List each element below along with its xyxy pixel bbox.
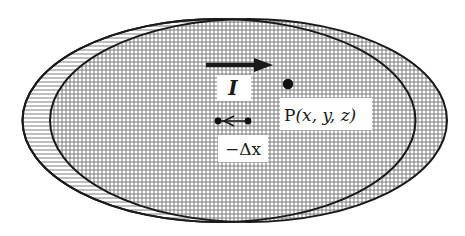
point-p-dot [283,79,293,89]
current-label: I [217,75,251,101]
point-label: P(x, y, z) [280,98,372,130]
point-label-prefix: P [284,105,295,125]
displacement-label-text: −Δx [225,139,262,159]
svg-text:P(x, y, z): P(x, y, z) [284,105,356,125]
point-label-coords: (x, y, z) [295,105,356,125]
displacement-label: −Δx [218,135,268,162]
displaced-current-diagram: I P(x, y, z) −Δx [0,0,465,236]
displacement-end-dot [245,118,252,125]
current-label-text: I [227,76,238,100]
displacement-start-dot [215,118,222,125]
